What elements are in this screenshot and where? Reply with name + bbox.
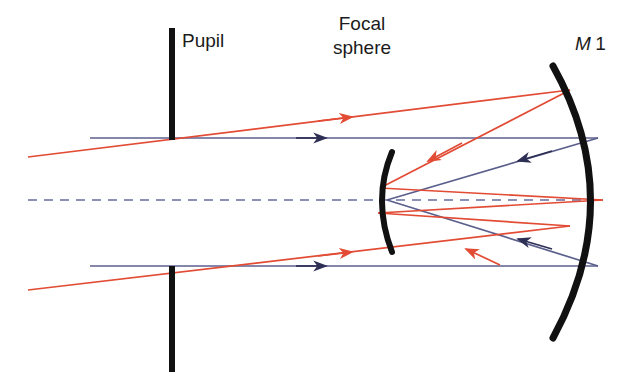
diagram-background [0, 0, 632, 390]
m1-label-number: 1 [595, 33, 606, 54]
focal-sphere-label-line1: Focal [339, 13, 385, 34]
pupil-label: Pupil [182, 30, 224, 51]
m1-label: M 1 [575, 33, 606, 54]
m1-label-letter: M [575, 33, 591, 54]
optical-diagram-canvas: Pupil Focal sphere M 1 [0, 0, 632, 390]
ray-diagram-svg: Pupil Focal sphere M 1 [0, 0, 632, 390]
focal-sphere-label-line2: sphere [333, 37, 391, 58]
